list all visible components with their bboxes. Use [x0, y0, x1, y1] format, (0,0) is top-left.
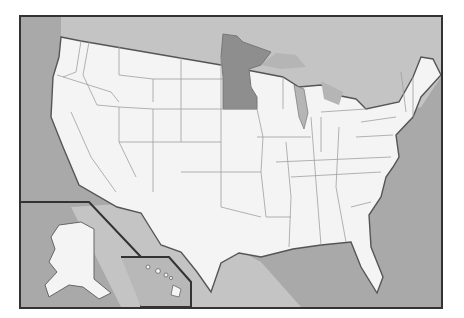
us-map	[21, 17, 441, 307]
map-frame	[19, 15, 443, 309]
